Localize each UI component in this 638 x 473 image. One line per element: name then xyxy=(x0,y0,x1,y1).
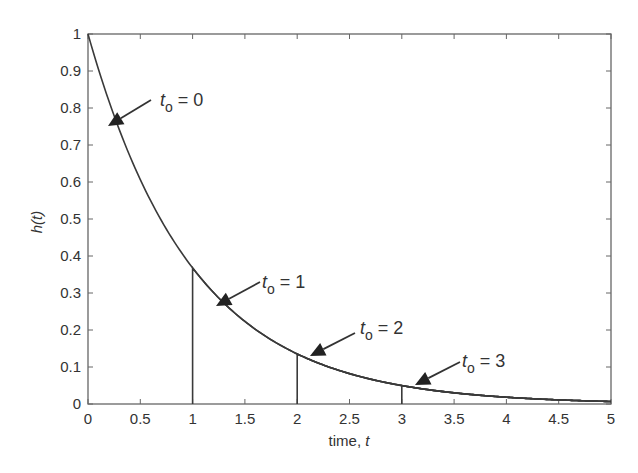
y-tick-label: 1 xyxy=(73,25,81,42)
plot-area xyxy=(88,34,611,404)
y-tick-label: 0.4 xyxy=(60,247,81,264)
y-tick-label: 0.7 xyxy=(60,136,81,153)
y-tick-label: 0.2 xyxy=(60,321,81,338)
chart: 00.511.522.533.544.5500.10.20.30.40.50.6… xyxy=(0,0,638,473)
y-tick-label: 0.1 xyxy=(60,358,81,375)
x-tick-label: 0.5 xyxy=(130,410,151,427)
x-tick-label: 4 xyxy=(502,410,510,427)
x-tick-label: 0 xyxy=(84,410,92,427)
x-tick-label: 2.5 xyxy=(339,410,360,427)
x-tick-label: 1 xyxy=(188,410,196,427)
x-tick-label: 2 xyxy=(293,410,301,427)
y-tick-label: 0.3 xyxy=(60,284,81,301)
x-tick-label: 3 xyxy=(398,410,406,427)
x-tick-label: 3.5 xyxy=(444,410,465,427)
y-tick-label: 0.5 xyxy=(60,210,81,227)
x-tick-label: 5 xyxy=(607,410,615,427)
y-axis-label: h(t) xyxy=(28,211,45,234)
y-tick-label: 0 xyxy=(73,395,81,412)
x-tick-label: 4.5 xyxy=(548,410,569,427)
x-axis-label: time, t xyxy=(329,432,371,449)
y-tick-label: 0.6 xyxy=(60,173,81,190)
x-tick-label: 1.5 xyxy=(234,410,255,427)
y-tick-label: 0.9 xyxy=(60,62,81,79)
y-tick-label: 0.8 xyxy=(60,99,81,116)
